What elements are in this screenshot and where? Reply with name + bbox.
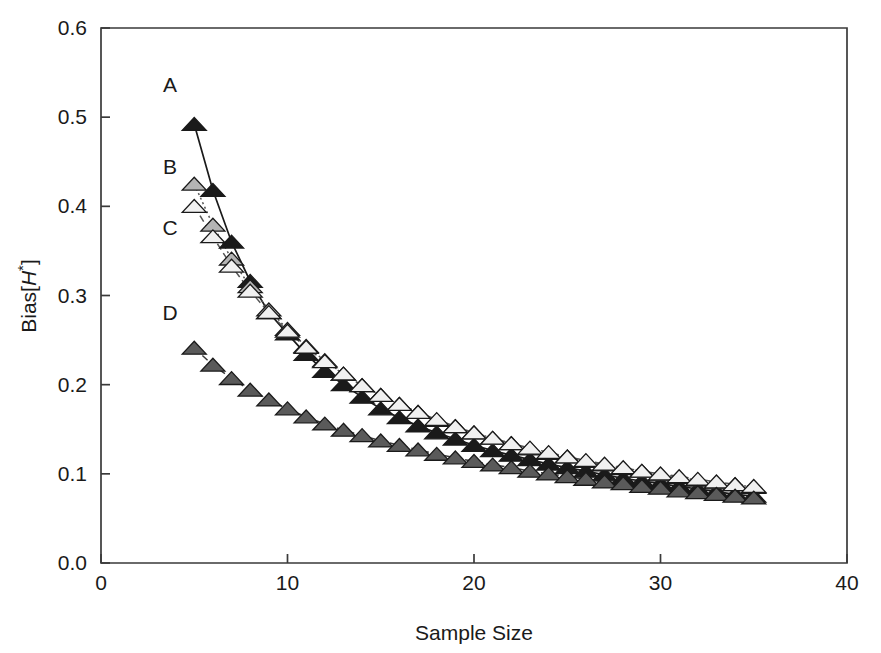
series-annotation-c: C (162, 216, 177, 239)
x-tick-label: 0 (95, 571, 107, 594)
data-point-marker (182, 200, 206, 213)
y-axis-title: Bias[H*] (14, 259, 41, 333)
y-tick-label: 0.0 (58, 551, 87, 574)
data-point-marker (499, 461, 523, 474)
data-point-marker (201, 230, 225, 243)
data-point-marker (313, 355, 337, 368)
data-point-marker (313, 417, 337, 430)
y-axis-tick-labels: 0.00.10.20.30.40.50.6 (58, 16, 88, 574)
y-tick-label: 0.3 (58, 284, 87, 307)
y-tick-label: 0.6 (58, 16, 87, 39)
x-tick-label: 40 (835, 571, 858, 594)
x-tick-label: 30 (649, 571, 672, 594)
x-axis-tick-labels: 010203040 (95, 571, 859, 594)
data-point-marker (518, 464, 542, 477)
y-axis-ticks (101, 28, 110, 563)
y-tick-label: 0.2 (58, 373, 87, 396)
data-point-marker (182, 117, 206, 130)
series-annotation-a: A (163, 73, 177, 96)
data-point-marker (686, 472, 710, 485)
bias-vs-sample-size-chart: 010203040 0.00.10.20.30.40.50.6 ABCD Sam… (0, 0, 881, 653)
y-tick-label: 0.1 (58, 462, 87, 485)
data-point-marker (220, 372, 244, 385)
data-point-marker (201, 358, 225, 371)
series-markers (182, 117, 766, 503)
x-axis-title: Sample Size (415, 621, 533, 644)
data-point-marker (294, 340, 318, 353)
x-tick-label: 20 (462, 571, 485, 594)
series-annotation-b: B (163, 155, 177, 178)
data-point-marker (350, 379, 374, 392)
y-tick-label: 0.5 (58, 105, 87, 128)
data-point-marker (406, 405, 430, 418)
data-point-marker (630, 464, 654, 477)
x-axis-title-text: Sample Size (415, 621, 533, 644)
series-line-d (194, 348, 754, 498)
data-point-marker (182, 341, 206, 354)
figure-container: 010203040 0.00.10.20.30.40.50.6 ABCD Sam… (0, 0, 881, 653)
data-point-marker (443, 451, 467, 464)
data-point-marker (704, 475, 728, 488)
data-point-marker (611, 461, 635, 474)
data-point-marker (182, 177, 206, 190)
data-point-marker (331, 367, 355, 380)
data-point-marker (649, 467, 673, 480)
x-tick-label: 10 (276, 571, 299, 594)
y-tick-label: 0.4 (58, 194, 88, 217)
series-annotations: ABCD (162, 73, 177, 324)
x-axis-ticks (101, 554, 847, 563)
y-axis-title-text: Bias[H*] (14, 259, 41, 333)
data-point-marker (425, 413, 449, 426)
series-annotation-d: D (162, 301, 177, 324)
data-point-marker (294, 410, 318, 423)
